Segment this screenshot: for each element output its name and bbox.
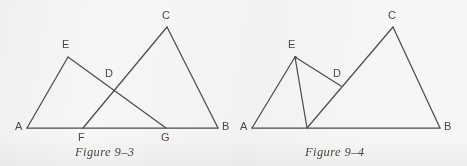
figure-9-4-label-A: A — [240, 121, 248, 132]
figure-page: AEDCFGBAEDCB Figure 9–3Figure 9–4 — [0, 0, 467, 166]
figure-9-4-vertex-dot-E — [294, 56, 297, 59]
figure-9-3-segment-EG — [68, 57, 166, 128]
geometry-canvas — [0, 0, 467, 166]
figure-9-3-segment-AE — [27, 57, 68, 128]
figure-9-3-segment-CB — [167, 27, 218, 128]
figure-9-3-segments — [27, 27, 218, 128]
figure-9-3-label-G: G — [161, 132, 170, 143]
figure-9-4-segment-HC — [307, 27, 393, 128]
figure-9-3-label-A: A — [15, 121, 23, 132]
figure-9-4-segment-CB — [393, 27, 440, 128]
figure-9-4-label-B: B — [444, 121, 452, 132]
figure-9-4-label-E: E — [288, 39, 296, 50]
figure-9-3-label-C: C — [162, 10, 170, 21]
figure-9-4-caption: Figure 9–4 — [305, 145, 364, 160]
figure-9-3-label-F: F — [78, 132, 85, 143]
segments-layer — [27, 27, 440, 128]
figure-9-3-label-B: B — [222, 121, 230, 132]
figure-9-3-caption: Figure 9–3 — [75, 145, 134, 160]
figure-9-4-segments — [252, 27, 440, 128]
figure-9-4-label-D: D — [333, 68, 341, 79]
figure-9-4-label-C: C — [388, 10, 396, 21]
figure-9-4-segment-AE — [252, 57, 295, 128]
figure-9-4-segment-EH — [295, 57, 307, 128]
figure-9-3-label-E: E — [62, 39, 70, 50]
figure-9-3-label-D: D — [105, 68, 113, 79]
